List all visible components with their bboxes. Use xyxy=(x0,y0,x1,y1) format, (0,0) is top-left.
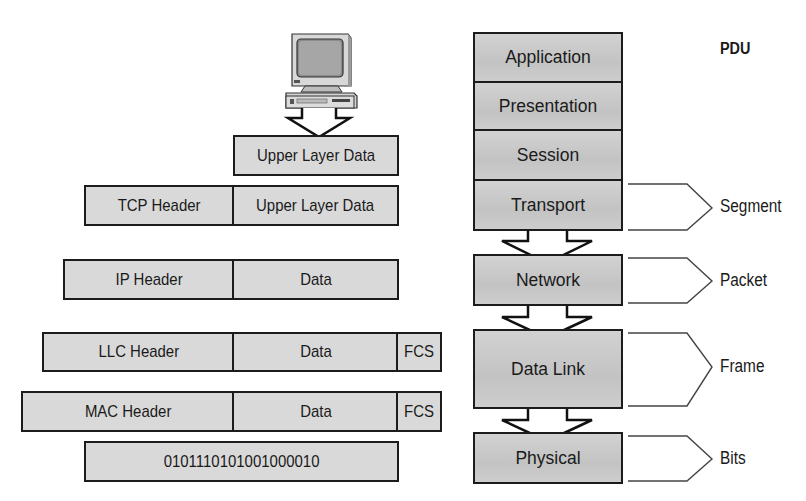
mac-fcs-label: FCS xyxy=(404,402,434,422)
llc-header-label: LLC Header xyxy=(98,342,179,362)
llc-fcs-box: FCS xyxy=(396,332,442,372)
bits-box: 0101110101001000010 xyxy=(84,441,399,482)
osi-layer-session: Session xyxy=(473,129,623,181)
pdu-label-text: Segment xyxy=(720,196,782,217)
osi-layer-data-link: Data Link xyxy=(473,329,623,409)
osi-layer-label: Session xyxy=(517,145,579,166)
tcp-header-label: TCP Header xyxy=(118,196,201,216)
upper-layer-data-label: Upper Layer Data xyxy=(257,146,375,166)
ip-header-label: IP Header xyxy=(115,270,182,290)
osi-layer-label: Data Link xyxy=(511,359,585,380)
pdu-label-text: Bits xyxy=(720,448,746,469)
osi-layer-transport: Transport xyxy=(473,179,623,231)
llc-data-box: Data xyxy=(232,332,399,372)
mac-data-box: Data xyxy=(232,391,399,432)
pdu-label-bits: Bits xyxy=(720,448,749,469)
mac-header-label: MAC Header xyxy=(85,402,171,422)
pdu-label-text: Frame xyxy=(720,356,764,377)
tcp-data-box: Upper Layer Data xyxy=(232,185,399,226)
llc-header-box: LLC Header xyxy=(42,332,235,372)
mac-header-box: MAC Header xyxy=(21,391,235,432)
ip-header-box: IP Header xyxy=(63,259,235,300)
pdu-heading: PDU xyxy=(720,40,754,58)
desktop-computer-icon xyxy=(286,34,357,108)
ip-data-box: Data xyxy=(232,259,399,300)
mac-fcs-box: FCS xyxy=(396,391,442,432)
upper-layer-data-box: Upper Layer Data xyxy=(233,135,399,176)
osi-layer-label: Application xyxy=(505,47,591,68)
pdu-heading-text: PDU xyxy=(720,40,750,58)
mac-data-label: Data xyxy=(300,402,332,422)
pdu-label-frame: Frame xyxy=(720,356,771,377)
osi-layer-application: Application xyxy=(473,32,623,83)
tcp-data-label: Upper Layer Data xyxy=(256,196,374,216)
pdu-label-segment: Segment xyxy=(720,196,790,217)
tcp-header-box: TCP Header xyxy=(84,185,235,226)
osi-layer-label: Transport xyxy=(511,195,585,216)
pdu-label-packet: Packet xyxy=(720,270,774,291)
osi-layer-label: Network xyxy=(516,270,580,291)
llc-data-label: Data xyxy=(300,342,332,362)
osi-layer-physical: Physical xyxy=(473,432,623,484)
down-arrow-icon xyxy=(288,108,350,137)
osi-layer-label: Presentation xyxy=(499,96,597,117)
osi-layer-presentation: Presentation xyxy=(473,81,623,132)
pdu-label-text: Packet xyxy=(720,270,767,291)
llc-fcs-label: FCS xyxy=(404,342,434,362)
bits-label: 0101110101001000010 xyxy=(164,452,320,472)
osi-layer-network: Network xyxy=(473,254,623,306)
osi-layer-label: Physical xyxy=(515,448,580,469)
chevron-bracket-icon xyxy=(628,184,712,481)
ip-data-label: Data xyxy=(300,270,332,290)
